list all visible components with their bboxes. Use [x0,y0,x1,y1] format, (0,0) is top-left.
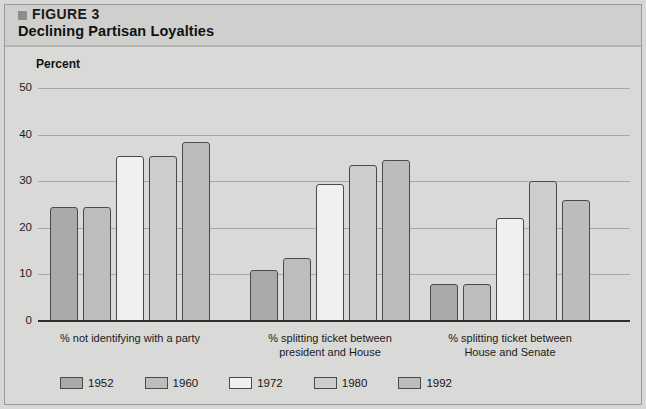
x-axis-group-label-line: House and Senate [400,346,620,360]
legend-swatch-icon [145,377,168,389]
legend-swatch-icon [60,377,83,389]
legend-swatch-icon [398,377,421,389]
legend-label: 1972 [257,377,283,389]
x-axis-group-label-line: % not identifying with a party [20,332,240,346]
x-axis-line [38,320,630,322]
bar-1960-group-2 [283,258,311,321]
figure-container: FIGURE 3 Declining Partisan Loyalties Pe… [0,0,646,409]
y-axis-tick-label: 40 [10,128,32,140]
figure-title: Declining Partisan Loyalties [18,23,214,39]
bar-1980-group-3 [529,181,557,321]
x-axis-group-label: % splitting ticket betweenHouse and Sena… [400,332,620,359]
y-axis-tick-label: 20 [10,221,32,233]
y-axis-tick-label: 10 [10,267,32,279]
legend-item-1992[interactable]: 1992 [398,377,452,389]
legend-item-1960[interactable]: 1960 [145,377,199,389]
plot-area [38,88,630,321]
bar-1960-group-3 [463,284,491,321]
figure-number-label: FIGURE 3 [32,6,100,22]
legend-item-1972[interactable]: 1972 [229,377,283,389]
bar-1952-group-1 [50,207,78,321]
bar-1972-group-3 [496,218,524,321]
legend-label: 1952 [88,377,114,389]
bar-1992-group-2 [382,160,410,321]
bar-1972-group-2 [316,184,344,321]
legend-label: 1980 [342,377,368,389]
legend-item-1980[interactable]: 1980 [314,377,368,389]
bar-1992-group-3 [562,200,590,321]
gridline [38,88,630,89]
legend-swatch-icon [314,377,337,389]
bar-1972-group-1 [116,156,144,321]
legend-label: 1960 [173,377,199,389]
figure-header-rule [5,45,641,47]
y-axis-title: Percent [36,57,80,71]
bar-1980-group-2 [349,165,377,321]
legend-item-1952[interactable]: 1952 [60,377,114,389]
y-axis-tick-label: 30 [10,174,32,186]
y-axis-ticks: 01020304050 [6,0,32,409]
bar-1952-group-2 [250,270,278,321]
legend-swatch-icon [229,377,252,389]
bar-1960-group-1 [83,207,111,321]
bar-1952-group-3 [430,284,458,321]
bar-1980-group-1 [149,156,177,321]
y-axis-tick-label: 0 [10,314,32,326]
gridline [38,135,630,136]
chart-legend: 19521960197219801992 [60,377,483,389]
legend-label: 1992 [426,377,452,389]
x-axis-group-label: % not identifying with a party [20,332,240,346]
y-axis-tick-label: 50 [10,81,32,93]
bar-1992-group-1 [182,142,210,321]
x-axis-group-label-line: % splitting ticket between [400,332,620,346]
